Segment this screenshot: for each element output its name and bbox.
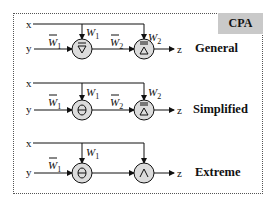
svg-text:W1: W1 <box>48 159 61 174</box>
svg-text:W1: W1 <box>86 146 99 161</box>
svg-text:W2: W2 <box>148 86 161 101</box>
svg-text:y: y <box>26 166 32 178</box>
svg-text:W1: W1 <box>48 96 61 111</box>
svg-text:W1: W1 <box>86 26 99 41</box>
row-general: x y z W1 W2 W1 W2 <box>26 18 182 59</box>
svg-text:z: z <box>177 43 182 55</box>
svg-text:z: z <box>177 167 182 179</box>
row-label-general: General <box>195 41 238 56</box>
svg-text:W1: W1 <box>86 86 99 101</box>
svg-text:z: z <box>177 104 182 116</box>
svg-text:W2: W2 <box>110 96 123 111</box>
svg-text:y: y <box>26 103 32 115</box>
svg-text:x: x <box>26 77 32 89</box>
row-extreme: x y z W1 W1 <box>26 137 182 183</box>
row-label-simplified: Simplified <box>193 102 248 117</box>
row-simplified: x y z W1 W2 W1 W2 <box>26 77 182 120</box>
svg-text:x: x <box>26 137 32 149</box>
svg-text:x: x <box>26 18 32 30</box>
row-label-extreme: Extreme <box>195 165 241 180</box>
svg-text:y: y <box>26 42 32 54</box>
